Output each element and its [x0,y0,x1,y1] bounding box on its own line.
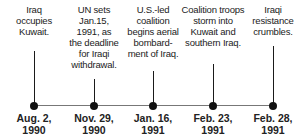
date-line: Feb. 28, [243,113,303,125]
event-date: Feb. 28, 1991 [243,113,303,136]
gulf-war-timeline: Iraq occupies Kuwait. Aug. 2, 1990 UN se… [0,0,304,140]
date-line: 1991 [123,125,183,137]
desc-line: crumbles. [243,26,303,37]
event-dot-icon [90,102,98,110]
date-line: 1991 [183,125,243,137]
event-stem [153,71,154,106]
date-line: Jan. 16, [123,113,183,125]
event-stem [273,46,274,106]
event-dot-icon [269,102,277,110]
event-dot-icon [149,102,157,110]
event-date: Jan. 16, 1991 [123,113,183,136]
event-date: Aug. 2, 1990 [4,113,64,136]
desc-line: ment of Iraq. [118,48,188,59]
desc-line: Coalition troops [175,4,251,15]
date-line: 1990 [4,125,64,137]
date-line: Feb. 23, [183,113,243,125]
date-line: Nov. 29, [64,113,124,125]
desc-line: withdrawal. [59,59,129,70]
event-description: Coalition troops storm into Kuwait and s… [175,4,251,48]
date-line: Aug. 2, [4,113,64,125]
event-date: Nov. 29, 1990 [64,113,124,136]
desc-line: southern Iraq. [175,37,251,48]
event-dot-icon [209,102,217,110]
date-line: 1990 [64,125,124,137]
desc-line: Kuwait and [175,26,251,37]
event-date: Feb. 23, 1991 [183,113,243,136]
event-description: Iraqi resistance crumbles. [243,4,303,37]
desc-line: Iraqi [243,4,303,15]
event-dot-icon [30,102,38,110]
desc-line: storm into [175,15,251,26]
event-stem [213,64,214,106]
date-line: 1991 [243,125,303,137]
desc-line: resistance [243,15,303,26]
event-stem [34,51,35,106]
